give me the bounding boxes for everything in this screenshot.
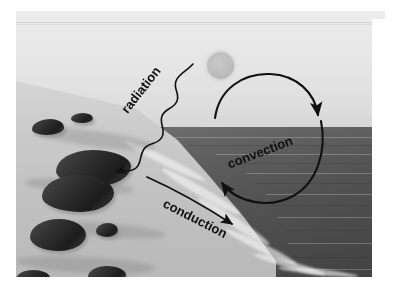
right-white-panel [372,19,406,293]
heat-transfer-figure: radiation convection conduction [16,11,385,277]
annotation-layer: radiation convection conduction [16,11,385,277]
convection-arc-top [215,74,318,118]
top-white-strip [0,0,406,11]
